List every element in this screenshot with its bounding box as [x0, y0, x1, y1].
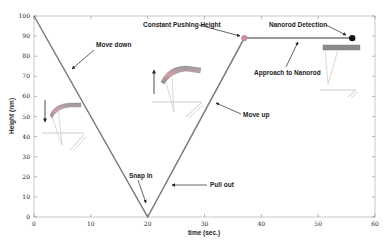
- y-tick-label: 40: [22, 133, 30, 140]
- annotation-move-up: Move up: [243, 111, 269, 119]
- annotation-pull-out: Pull out: [210, 181, 235, 188]
- y-tick-label: 100: [19, 12, 31, 19]
- y-tick-label: 60: [22, 92, 30, 99]
- y-axis-label: Height (nm): [8, 98, 16, 134]
- cantilever-illustration-move-up: [152, 66, 203, 118]
- x-tick-label: 40: [258, 220, 266, 227]
- nanorod-detection-marker: [349, 35, 355, 41]
- height-line: [34, 16, 352, 217]
- arrow-approach: [286, 42, 298, 67]
- annotation-nanorod-detection: Nanorod Detection: [269, 21, 327, 28]
- y-tick-label: 10: [22, 193, 30, 200]
- pull-out-gap: [146, 182, 148, 187]
- y-tick-label: 70: [22, 72, 30, 79]
- y-tick-label: 50: [22, 113, 30, 120]
- cantilever-illustration-move-down: [42, 100, 86, 151]
- y-tick-label: 30: [22, 153, 30, 160]
- x-axis-label: time (sec.): [188, 229, 220, 237]
- y-tick-label: 80: [22, 52, 30, 59]
- annotation-snap-in: Snap In: [129, 172, 153, 180]
- x-tick-label: 50: [314, 220, 322, 227]
- x-tick-label: 20: [144, 220, 152, 227]
- x-tick-label: 0: [32, 220, 36, 227]
- arrow-snap-in: [138, 180, 146, 203]
- arrow-nanorod-detection: [326, 25, 346, 35]
- y-tick-label: 20: [22, 173, 30, 180]
- x-tick-label: 30: [201, 220, 209, 227]
- y-tick-label: 0: [26, 213, 30, 220]
- arrow-move-up: [216, 103, 241, 114]
- x-tick-label: 60: [371, 220, 379, 227]
- chart: 0102030405060 0102030405060708090100 tim…: [0, 0, 387, 242]
- x-tick-label: 10: [87, 220, 95, 227]
- y-tick-label: 90: [22, 32, 30, 39]
- annotation-approach: Approach to Nanorod: [254, 69, 321, 77]
- arrow-move-down: [72, 50, 94, 69]
- y-axis-ticks: 0102030405060708090100: [19, 12, 375, 220]
- annotation-move-down: Move down: [96, 41, 131, 48]
- constant-pushing-height-marker: [241, 35, 247, 41]
- cantilever-illustration-nanorod: [320, 45, 360, 98]
